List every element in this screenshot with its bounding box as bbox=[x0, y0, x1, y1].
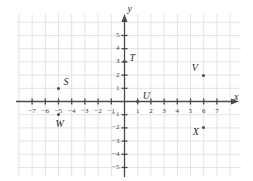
point-marker-u bbox=[136, 100, 139, 103]
plotted-points bbox=[0, 0, 253, 181]
coordinate-plane: −7−6−5−4−3−2−1123456754321−1−2−3−4−5xyST… bbox=[0, 0, 253, 181]
point-marker-t bbox=[123, 60, 126, 63]
point-marker-s bbox=[57, 87, 60, 90]
point-marker-v bbox=[202, 74, 205, 77]
point-marker-x bbox=[202, 126, 205, 129]
point-marker-w bbox=[57, 113, 60, 116]
